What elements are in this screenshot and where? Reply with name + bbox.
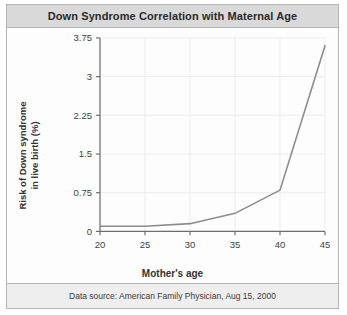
data-series-line [100,46,325,227]
x-tick-label: 20 [95,239,106,250]
line-chart-svg: 00.751.52.2533.75 202530354045 [7,28,338,283]
x-tick-label: 40 [275,239,286,250]
y-tick-label: 0 [87,226,92,237]
chart-figure: Down Syndrome Correlation with Maternal … [6,4,339,309]
y-tick-label: 0.75 [74,187,92,198]
x-tick-label: 35 [230,239,241,250]
axis-lines [100,38,325,231]
chart-footer-bar: Data source: American Family Physician, … [7,283,338,308]
grid-lines [100,38,325,231]
y-tick-labels: 00.751.52.2533.75 [74,32,92,236]
chart-title-bar: Down Syndrome Correlation with Maternal … [7,5,338,28]
x-axis-label: Mother's age [7,268,338,279]
x-tick-labels: 202530354045 [95,239,331,250]
y-tick-label: 2.25 [74,110,92,121]
x-tick-label: 25 [140,239,151,250]
x-tick-label: 45 [320,239,331,250]
y-tick-label: 1.5 [79,149,92,160]
x-tick-label: 30 [185,239,196,250]
plot-region: Risk of Down syndrome in live birth (%) … [7,28,338,283]
data-source-note: Data source: American Family Physician, … [69,291,276,301]
y-tick-label: 3.75 [74,32,92,43]
tick-marks [96,38,325,235]
page-title: Down Syndrome Correlation with Maternal … [48,10,298,22]
y-tick-label: 3 [87,71,92,82]
